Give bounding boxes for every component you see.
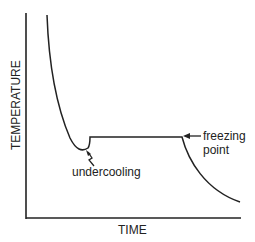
freezing-label-line2: point bbox=[203, 143, 230, 157]
undercooling-label: undercooling bbox=[72, 165, 141, 179]
y-axis-label: TEMPERATURE bbox=[9, 60, 23, 150]
freezing-label-line1: freezing bbox=[203, 129, 246, 143]
freezing-arrowhead-icon bbox=[183, 133, 190, 139]
cooling-curve-diagram: undercooling freezing point TIME TEMPERA… bbox=[0, 0, 255, 242]
x-axis-label: TIME bbox=[118, 223, 147, 237]
